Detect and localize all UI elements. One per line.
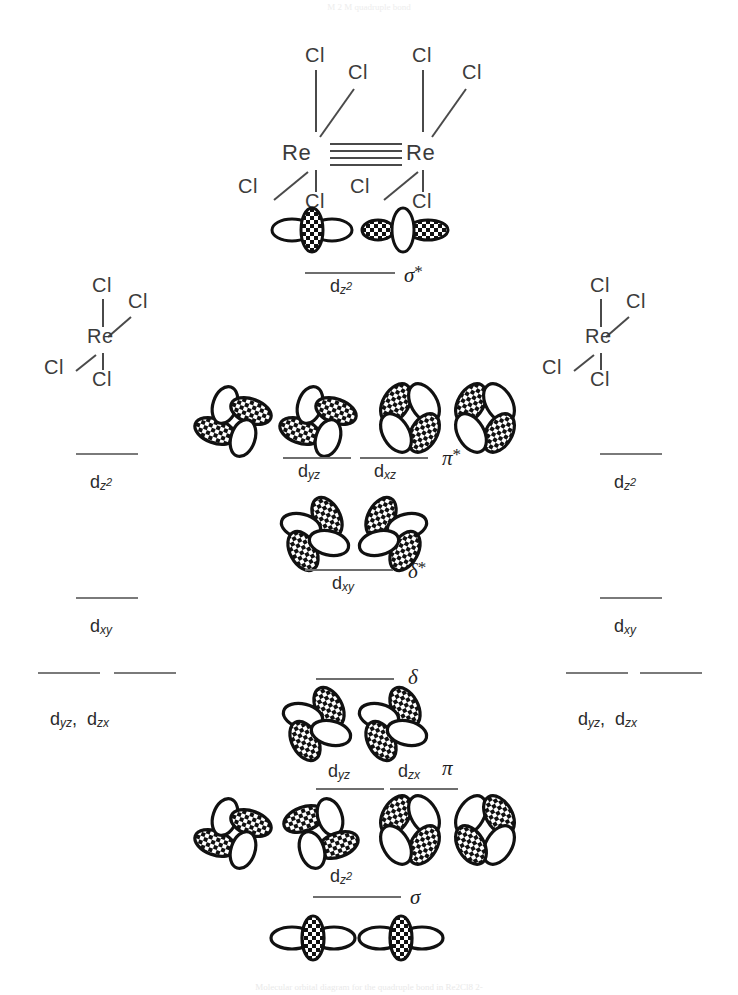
fragment-right-level-dxy bbox=[600, 597, 662, 599]
fragment-left-ligand-upper-right: Cl bbox=[128, 290, 148, 313]
left-dzx-sub: zx bbox=[97, 716, 109, 730]
fragment-right-label-dyz-dzx: dyz, dzx bbox=[578, 709, 637, 730]
left-level-comma: , bbox=[72, 709, 77, 729]
molecule-ligand-left-top: Cl bbox=[305, 44, 325, 67]
molecule-ligand-left-lower-left: Cl bbox=[238, 175, 258, 198]
mo-symbol-delta: δ bbox=[408, 664, 418, 690]
pi-dyz-d: d bbox=[328, 761, 338, 781]
deltastar-d: d bbox=[332, 573, 342, 593]
quadruple-bond-line-3 bbox=[330, 157, 402, 159]
mo-symbol-delta-star: δ* bbox=[408, 558, 426, 584]
orbital-delta-picture bbox=[275, 688, 435, 760]
level-line-pi-dzx bbox=[390, 788, 458, 790]
molecule-ligand-left-upper-right: Cl bbox=[348, 61, 368, 84]
sigma-glyph: σ bbox=[410, 885, 420, 909]
orbital-label-sigma-star-parent: dz2 bbox=[330, 276, 352, 297]
orbital-label-pi-dyz: dyz bbox=[328, 761, 350, 782]
left-dyz-d: d bbox=[50, 709, 60, 729]
fragment-left-label-dyz-dzx: dyz, dzx bbox=[50, 709, 109, 730]
level-line-sigma bbox=[313, 896, 401, 898]
fragment-right-level-dz2 bbox=[600, 453, 662, 455]
right-dxy-d: d bbox=[614, 616, 624, 636]
sigma-star-asterisk: * bbox=[414, 262, 423, 281]
right-dz2-sup: 2 bbox=[630, 476, 636, 488]
fragment-left-ligand-lower-left: Cl bbox=[44, 356, 64, 379]
pi-glyph: π bbox=[442, 756, 453, 780]
quadruple-bond-line-1 bbox=[330, 143, 402, 145]
delta-glyph: δ bbox=[408, 665, 418, 689]
right-dxy-sub: xy bbox=[624, 623, 636, 637]
bond-left-bottom bbox=[315, 170, 317, 192]
fragment-right-ligand-bottom: Cl bbox=[590, 368, 610, 391]
orbital-sigma-picture bbox=[268, 908, 468, 968]
fragment-left-bond-bottom bbox=[102, 353, 104, 370]
fragment-left-label-dz2: dz2 bbox=[90, 472, 112, 493]
right-dz2-d: d bbox=[614, 472, 624, 492]
fragment-right-metal: Re bbox=[585, 325, 612, 348]
fragment-left-level-dxy bbox=[76, 597, 138, 599]
level-line-pi-star-dxz bbox=[360, 457, 428, 459]
fragment-right-bond-bottom bbox=[600, 353, 602, 370]
fragment-right-structure: Cl Cl Re Cl Cl bbox=[498, 265, 738, 385]
pi-star-glyph: π bbox=[442, 446, 453, 470]
mo-symbol-sigma-star: σ* bbox=[404, 262, 423, 288]
fragment-left-label-dxy: dxy bbox=[90, 616, 112, 637]
pi-dzx-sub: zx bbox=[408, 768, 420, 782]
level-line-delta-star bbox=[305, 569, 393, 571]
orbital-pi-star-picture bbox=[195, 383, 515, 458]
fragment-right-level-dzx bbox=[640, 672, 702, 674]
pi-dzx-d: d bbox=[398, 761, 408, 781]
sigma-d: d bbox=[330, 866, 340, 886]
pistar-dyz-sub: yz bbox=[308, 468, 320, 482]
left-dxy-sub: xy bbox=[100, 623, 112, 637]
fragment-right-ligand-upper-right: Cl bbox=[626, 290, 646, 313]
orbital-pi-picture bbox=[195, 795, 515, 870]
pistar-dxz-d: d bbox=[374, 461, 384, 481]
mo-symbol-pi-star: π* bbox=[442, 445, 461, 471]
deltastar-sub: xy bbox=[342, 580, 354, 594]
bond-left-upper-right bbox=[316, 87, 356, 139]
left-dzx-d: d bbox=[87, 709, 97, 729]
orbital-label-pi-star-dxz: dxz bbox=[374, 461, 396, 482]
fragment-left-ligand-top: Cl bbox=[92, 274, 112, 297]
right-dzx-sub: zx bbox=[625, 716, 637, 730]
level-line-delta bbox=[316, 678, 394, 680]
bond-right-upper-right bbox=[428, 87, 468, 139]
molecule-ligand-right-upper-right: Cl bbox=[462, 61, 482, 84]
orbital-label-pi-dzx: dzx bbox=[398, 761, 420, 782]
molecule-metal-left: Re bbox=[282, 140, 311, 166]
fragment-left-ligand-bottom: Cl bbox=[92, 368, 112, 391]
fragment-left-level-dyz bbox=[38, 672, 100, 674]
top-note: M 2 M quadruple bond bbox=[0, 2, 738, 12]
orbital-label-pi-star-dyz: dyz bbox=[298, 461, 320, 482]
orbital-label-delta-star: dxy bbox=[332, 573, 354, 594]
left-dz2-d: d bbox=[90, 472, 100, 492]
level-line-pi-star-dyz bbox=[283, 457, 351, 459]
fragment-left-level-dzx bbox=[114, 672, 176, 674]
orbital-sigma-star-picture bbox=[270, 200, 450, 260]
bond-right-bottom bbox=[422, 170, 424, 192]
delta-star-asterisk: * bbox=[418, 558, 427, 577]
fragment-right-label-dz2: dz2 bbox=[614, 472, 636, 493]
right-dzx-d: d bbox=[615, 709, 625, 729]
pi-dyz-sub: yz bbox=[338, 768, 350, 782]
bond-right-top bbox=[422, 70, 424, 132]
fragment-left-metal: Re bbox=[87, 325, 114, 348]
molecule-ligand-right-lower-left: Cl bbox=[350, 175, 370, 198]
mo-symbol-pi: π bbox=[442, 755, 453, 781]
quadruple-bond-line-4 bbox=[330, 164, 402, 166]
sigma-star-glyph: σ bbox=[404, 263, 414, 287]
level-line-pi-dyz bbox=[316, 788, 384, 790]
figure-caption: Molecular orbital diagram for the quadru… bbox=[0, 982, 738, 992]
molecule-ligand-right-top: Cl bbox=[412, 44, 432, 67]
mo-symbol-sigma: σ bbox=[410, 884, 420, 910]
pistar-dxz-sub: xz bbox=[384, 468, 396, 482]
sigma-star-d: d bbox=[330, 276, 340, 296]
fragment-right-level-dyz bbox=[566, 672, 628, 674]
right-dyz-sub: yz bbox=[588, 716, 600, 730]
fragment-left-level-dz2 bbox=[76, 453, 138, 455]
quadruple-bond-line-2 bbox=[330, 150, 402, 152]
left-dxy-d: d bbox=[90, 616, 100, 636]
sigma-star-sup: 2 bbox=[346, 280, 352, 292]
level-line-sigma-star bbox=[305, 272, 395, 274]
